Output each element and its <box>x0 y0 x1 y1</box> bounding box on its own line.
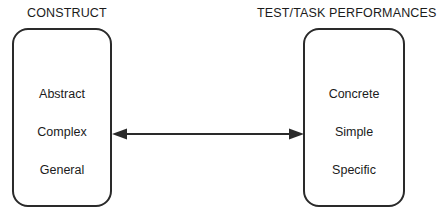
performance-attribute-specific: Specific <box>332 164 376 202</box>
construct-attribute-abstract: Abstract <box>39 88 85 126</box>
construct-attribute-general: General <box>40 164 84 202</box>
arrowhead-left-icon <box>112 129 127 140</box>
performance-attribute-simple: Simple <box>335 126 373 164</box>
diagram-canvas: CONSTRUCT TEST/TASK PERFORMANCES Abstrac… <box>0 0 442 223</box>
construct-attribute-list: Abstract Complex General <box>12 88 112 202</box>
arrowhead-right-icon <box>289 129 304 140</box>
performance-attribute-concrete: Concrete <box>329 88 380 126</box>
construct-attribute-complex: Complex <box>37 126 86 164</box>
performance-attribute-list: Concrete Simple Specific <box>303 88 405 202</box>
